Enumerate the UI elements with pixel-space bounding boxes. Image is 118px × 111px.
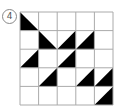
black-triangle: [57, 31, 76, 50]
black-triangle: [76, 68, 95, 87]
black-triangle: [39, 31, 58, 50]
black-triangle: [20, 49, 39, 68]
black-triangle: [20, 12, 39, 31]
black-triangle: [39, 68, 58, 87]
black-triangle: [57, 49, 76, 68]
black-triangle: [76, 31, 95, 50]
black-triangle: [94, 86, 113, 105]
black-triangle: [94, 68, 113, 87]
triangle-grid-diagram: [0, 0, 118, 111]
